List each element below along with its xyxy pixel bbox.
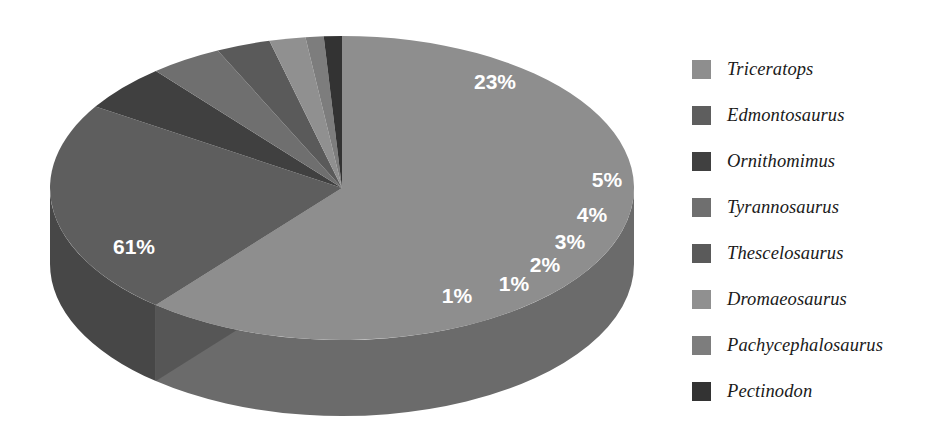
pie-slice-percent-label: 1% xyxy=(442,284,473,307)
legend-item[interactable]: Triceratops xyxy=(692,46,933,92)
legend-item-label: Dromaeosaurus xyxy=(727,289,847,310)
legend-item[interactable]: Dromaeosaurus xyxy=(692,276,933,322)
legend-item[interactable]: Edmontosaurus xyxy=(692,92,933,138)
legend-item-label: Edmontosaurus xyxy=(727,105,844,126)
pie-top xyxy=(50,36,634,340)
legend-item-label: Pachycephalosaurus xyxy=(727,335,883,356)
pie-slice-percent-label: 4% xyxy=(577,203,608,226)
legend-item-label: Thescelosaurus xyxy=(727,243,844,264)
legend-item[interactable]: Ornithomimus xyxy=(692,138,933,184)
legend-item-label: Triceratops xyxy=(727,59,813,80)
legend-item[interactable]: Tyrannosaurus xyxy=(692,184,933,230)
legend-item[interactable]: Thescelosaurus xyxy=(692,230,933,276)
legend-swatch-icon xyxy=(692,152,711,171)
legend-item-label: Ornithomimus xyxy=(727,151,835,172)
legend-item-label: Tyrannosaurus xyxy=(727,197,839,218)
legend: TriceratopsEdmontosaurusOrnithomimusTyra… xyxy=(692,46,933,414)
pie-slice-percent-label: 23% xyxy=(474,70,516,93)
pie-slice-percent-label: 2% xyxy=(530,253,561,276)
legend-item[interactable]: Pachycephalosaurus xyxy=(692,322,933,368)
legend-swatch-icon xyxy=(692,198,711,217)
pie-slice-percent-label: 3% xyxy=(555,230,586,253)
legend-swatch-icon xyxy=(692,290,711,309)
pie-chart: 61%23%5%4%3%2%1%1% TriceratopsEdmontosau… xyxy=(0,0,933,446)
legend-swatch-icon xyxy=(692,106,711,125)
legend-item-label: Pectinodon xyxy=(727,381,812,402)
legend-item[interactable]: Pectinodon xyxy=(692,368,933,414)
legend-swatch-icon xyxy=(692,382,711,401)
legend-swatch-icon xyxy=(692,336,711,355)
legend-swatch-icon xyxy=(692,60,711,79)
pie-slice-percent-label: 1% xyxy=(499,272,530,295)
pie-svg: 61%23%5%4%3%2%1%1% xyxy=(0,0,680,446)
pie-slice-percent-label: 5% xyxy=(592,168,623,191)
legend-swatch-icon xyxy=(692,244,711,263)
pie-slice-percent-label: 61% xyxy=(113,235,155,258)
